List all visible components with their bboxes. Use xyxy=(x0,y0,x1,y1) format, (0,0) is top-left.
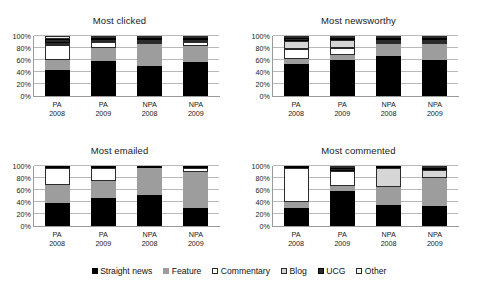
legend-item[interactable]: Commentary xyxy=(212,266,270,276)
bar-segment[interactable] xyxy=(284,64,309,96)
bar-segment[interactable] xyxy=(137,195,162,226)
x-axis-category-label: NPA2008 xyxy=(381,100,397,118)
stacked-bar[interactable]: PA2008 xyxy=(284,36,309,96)
category-label-line1: PA xyxy=(334,100,350,109)
x-axis-category-label: PA2008 xyxy=(288,100,304,118)
x-axis-category-label: NPA2009 xyxy=(427,230,443,248)
stacked-bar[interactable]: NPA2009 xyxy=(183,166,208,226)
x-axis-category-label: NPA2009 xyxy=(188,230,204,248)
plot-area: 0%20%40%60%80%100%PA2008PA2009NPA2008NPA… xyxy=(34,36,219,96)
stacked-bar[interactable]: PA2009 xyxy=(330,36,355,96)
stacked-bar[interactable]: NPA2009 xyxy=(422,166,447,226)
bar-segment[interactable] xyxy=(45,60,70,70)
legend-swatch-icon xyxy=(212,268,218,274)
category-label-line1: PA xyxy=(288,230,304,239)
bar-segment[interactable] xyxy=(91,181,116,198)
bar-segment[interactable] xyxy=(330,191,355,226)
x-axis-line xyxy=(33,96,220,97)
bar-segment[interactable] xyxy=(137,66,162,96)
x-axis-category-label: NPA2009 xyxy=(427,100,443,118)
bar-segment[interactable] xyxy=(45,185,70,202)
category-label-line2: 2009 xyxy=(427,239,443,248)
category-label-line1: PA xyxy=(334,230,350,239)
legend-item[interactable]: Other xyxy=(356,266,386,276)
bar-segment[interactable] xyxy=(422,206,447,226)
bar-segment[interactable] xyxy=(284,168,309,202)
stacked-bar[interactable]: NPA2008 xyxy=(137,166,162,226)
bar-segment[interactable] xyxy=(284,41,309,49)
stacked-bar[interactable]: NPA2008 xyxy=(137,36,162,96)
stacked-bar[interactable]: PA2008 xyxy=(45,36,70,96)
bar-segment[interactable] xyxy=(422,170,447,178)
bar-segment[interactable] xyxy=(45,203,70,226)
bar-segment[interactable] xyxy=(284,208,309,226)
bar-segment[interactable] xyxy=(330,48,355,55)
bar-segment[interactable] xyxy=(91,198,116,226)
legend-item[interactable]: Blog xyxy=(281,266,307,276)
panel-title: Most emailed xyxy=(0,145,239,156)
bar-group: PA2008PA2009NPA2008NPA2009 xyxy=(34,166,219,226)
category-label-line1: NPA xyxy=(188,230,204,239)
bar-segment[interactable] xyxy=(376,205,401,226)
y-axis-tick-label: 20% xyxy=(256,80,270,87)
bar-segment[interactable] xyxy=(330,40,355,48)
bar-segment[interactable] xyxy=(45,70,70,96)
legend-swatch-icon xyxy=(281,268,287,274)
bar-segment[interactable] xyxy=(183,208,208,226)
stacked-bar[interactable]: PA2009 xyxy=(91,166,116,226)
legend-label: UCG xyxy=(326,266,345,276)
bar-segment[interactable] xyxy=(422,178,447,206)
category-label-line2: 2008 xyxy=(288,239,304,248)
stacked-bar[interactable]: NPA2008 xyxy=(376,36,401,96)
y-axis-tick-label: 20% xyxy=(256,210,270,217)
bar-segment[interactable] xyxy=(284,49,309,59)
category-label-line2: 2008 xyxy=(49,109,65,118)
bar-segment[interactable] xyxy=(45,168,70,185)
legend-swatch-icon xyxy=(356,268,362,274)
stacked-bar[interactable]: NPA2009 xyxy=(183,36,208,96)
x-axis-category-label: PA2009 xyxy=(334,100,350,118)
bar-segment[interactable] xyxy=(45,45,70,60)
stacked-bar[interactable]: NPA2009 xyxy=(422,36,447,96)
bar-segment[interactable] xyxy=(183,62,208,96)
stacked-bar[interactable]: NPA2008 xyxy=(376,166,401,226)
x-axis-category-label: NPA2008 xyxy=(142,230,158,248)
stacked-bar[interactable]: PA2009 xyxy=(330,166,355,226)
category-label-line1: PA xyxy=(288,100,304,109)
bar-segment[interactable] xyxy=(137,44,162,65)
legend-item[interactable]: Feature xyxy=(163,266,201,276)
y-axis-tick-label: 0% xyxy=(21,92,31,99)
category-label-line1: NPA xyxy=(427,230,443,239)
y-axis-tick-label: 0% xyxy=(21,222,31,229)
category-label-line2: 2009 xyxy=(188,109,204,118)
category-label-line1: PA xyxy=(49,230,65,239)
legend-label: Other xyxy=(365,266,387,276)
bar-segment[interactable] xyxy=(183,46,208,62)
bar-segment[interactable] xyxy=(183,172,208,208)
bar-segment[interactable] xyxy=(137,168,162,195)
bar-segment[interactable] xyxy=(422,44,447,60)
legend-item[interactable]: UCG xyxy=(318,266,346,276)
y-axis-tick-label: 100% xyxy=(252,162,270,169)
bar-segment[interactable] xyxy=(376,168,401,187)
bar-segment[interactable] xyxy=(91,61,116,96)
category-label-line2: 2009 xyxy=(427,109,443,118)
bar-segment[interactable] xyxy=(422,60,447,96)
bar-segment[interactable] xyxy=(91,48,116,61)
legend-item[interactable]: Straight news xyxy=(92,266,153,276)
bar-segment[interactable] xyxy=(330,60,355,96)
y-axis-tick-label: 100% xyxy=(13,32,31,39)
stacked-bar[interactable]: PA2008 xyxy=(284,166,309,226)
bar-segment[interactable] xyxy=(376,187,401,205)
y-axis-tick-label: 60% xyxy=(17,56,31,63)
category-label-line2: 2008 xyxy=(142,109,158,118)
category-label-line1: NPA xyxy=(381,100,397,109)
bar-segment[interactable] xyxy=(91,168,116,181)
stacked-bar[interactable]: PA2009 xyxy=(91,36,116,96)
bar-segment[interactable] xyxy=(376,56,401,96)
bar-segment[interactable] xyxy=(376,44,401,56)
stacked-bar[interactable]: PA2008 xyxy=(45,166,70,226)
bar-group: PA2008PA2009NPA2008NPA2009 xyxy=(273,166,458,226)
bar-segment[interactable] xyxy=(330,171,355,187)
chart-legend: Straight newsFeatureCommentaryBlogUCGOth… xyxy=(0,266,478,276)
